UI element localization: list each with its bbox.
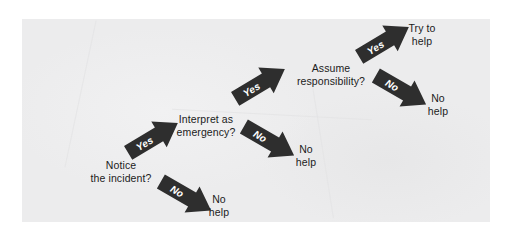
node-notice-label: Notice the incident?	[75, 159, 167, 184]
node-responsibility-label: Assume responsibility?	[285, 62, 377, 87]
outcome-no-help-3: No help	[415, 92, 461, 117]
outcome-no-help-2: No help	[283, 143, 329, 168]
paper-crease	[64, 21, 96, 168]
outcome-try-help: Try to help	[397, 22, 447, 47]
node-interpret-label: Interpret as emergency?	[167, 113, 245, 138]
decision-tree-figure: Notice the incident? No No help Yes Inte…	[0, 0, 513, 246]
outcome-no-help-1: No help	[196, 193, 242, 218]
